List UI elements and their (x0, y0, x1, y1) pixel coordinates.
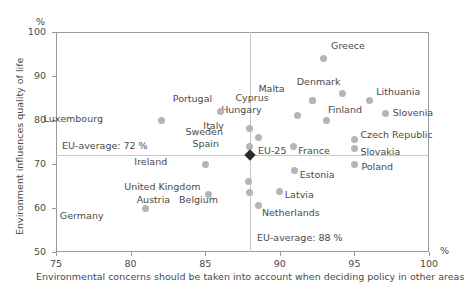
eu-average-horizontal-label: EU-average: 72 % (60, 141, 150, 151)
data-point-label: Finland (328, 105, 362, 115)
x-axis-unit: % (440, 245, 449, 256)
x-tick-label: 75 (41, 258, 71, 269)
data-point[interactable] (309, 97, 316, 104)
data-point-label: Netherlands (262, 208, 320, 218)
data-point-label: Latvia (285, 190, 314, 200)
data-point-label: Germany (60, 211, 104, 221)
x-tick-label: 90 (265, 258, 295, 269)
data-point-label: Poland (361, 162, 393, 172)
x-tick-mark (354, 252, 355, 256)
data-point[interactable] (351, 145, 358, 152)
y-tick-label: 90 (24, 70, 46, 81)
x-tick-mark (280, 252, 281, 256)
x-tick-label: 100 (414, 258, 444, 269)
y-tick-label: 70 (24, 158, 46, 169)
data-point-label: Spain (192, 139, 219, 149)
y-tick-label: 80 (24, 114, 46, 125)
data-point-label: Austria (137, 195, 171, 205)
data-point-label: Denmark (297, 77, 341, 87)
x-tick-label: 85 (190, 258, 220, 269)
data-point[interactable] (320, 55, 327, 62)
data-point[interactable] (245, 178, 252, 185)
x-axis-title: Environmental concerns should be taken i… (36, 271, 464, 282)
data-point-label: Lithuania (376, 87, 420, 97)
y-tick-label: 50 (24, 246, 46, 257)
y-tick-label: 60 (24, 202, 46, 213)
data-point-label: Slovakia (360, 147, 400, 157)
data-point-label: Portugal (173, 94, 212, 104)
y-tick-mark (52, 76, 56, 77)
data-point[interactable] (205, 191, 212, 198)
x-tick-mark (56, 252, 57, 256)
x-tick-mark (429, 252, 430, 256)
x-tick-label: 80 (116, 258, 146, 269)
data-point-label: Luxembourg (44, 114, 103, 124)
data-point-label: Cyprus (235, 93, 268, 103)
data-point[interactable] (351, 161, 358, 168)
y-tick-label: 100 (24, 26, 46, 37)
data-point-label: Czech Republic (360, 130, 432, 140)
data-point-label: EU-25 (258, 146, 286, 156)
data-point-label: France (298, 146, 330, 156)
data-point[interactable] (217, 108, 224, 115)
data-point[interactable] (323, 117, 330, 124)
data-point-label: Greece (331, 41, 365, 51)
data-point-label: United Kingdom (124, 182, 200, 192)
x-tick-label: 95 (339, 258, 369, 269)
y-tick-mark (52, 32, 56, 33)
y-tick-mark (52, 164, 56, 165)
x-tick-mark (131, 252, 132, 256)
data-point-label: Sweden (185, 127, 223, 137)
x-tick-mark (205, 252, 206, 256)
data-point-label: Ireland (134, 157, 167, 167)
data-point[interactable] (366, 97, 373, 104)
y-tick-mark (52, 208, 56, 209)
data-point[interactable] (339, 90, 346, 97)
scatter-chart: % % Environment influences quality of li… (0, 0, 473, 286)
eu-average-vertical-line (250, 32, 251, 252)
data-point-label: Belgium (179, 195, 218, 205)
data-point-label: Hungary (221, 105, 262, 115)
data-point[interactable] (290, 143, 297, 150)
data-point-label: Slovenia (393, 108, 433, 118)
data-point[interactable] (202, 161, 209, 168)
eu-average-vertical-label: EU-average: 88 % (255, 233, 345, 243)
data-point[interactable] (142, 205, 149, 212)
data-point-label: Estonia (300, 170, 335, 180)
